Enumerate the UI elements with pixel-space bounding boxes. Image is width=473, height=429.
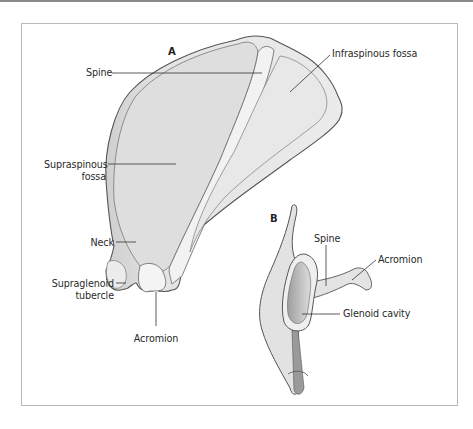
label-spine-a: Spine: [86, 67, 112, 78]
panel-label-b: B: [270, 213, 278, 224]
label-acromion-a: Acromion: [126, 333, 186, 344]
label-spine-b: Spine: [314, 233, 340, 244]
panel-label-a: A: [168, 46, 176, 57]
label-supraspinous-line2: fossa: [44, 171, 106, 182]
label-glenoid-cavity: Glenoid cavity: [343, 308, 410, 319]
label-infraspinous-fossa: Infraspinous fossa: [332, 48, 417, 59]
label-supraspinous-line1: Supraspinous: [44, 159, 106, 170]
lateral-border-b: [292, 330, 304, 394]
label-neck: Neck: [60, 237, 114, 248]
scapula-illustration: [0, 0, 473, 429]
label-supraglenoid-line2: tubercle: [38, 290, 114, 301]
label-supraglenoid-line1: Supraglenoid: [38, 278, 114, 289]
spine-acromion-b: [310, 268, 372, 298]
label-acromion-b: Acromion: [378, 254, 422, 265]
